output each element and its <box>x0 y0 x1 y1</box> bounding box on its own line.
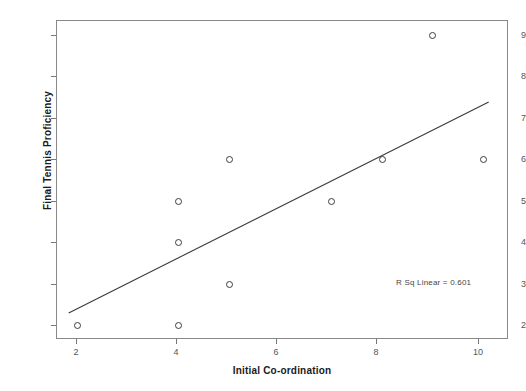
x-tick-label-4: 4 <box>164 348 188 357</box>
data-point <box>74 322 81 329</box>
x-tick-label-2: 2 <box>64 348 88 357</box>
x-tick-label-10: 10 <box>466 348 490 357</box>
x-tick-mark-10 <box>478 339 479 344</box>
x-tick-label-8: 8 <box>364 348 388 357</box>
data-point <box>226 156 233 163</box>
x-tick-mark-4 <box>176 339 177 344</box>
x-tick-mark-6 <box>276 339 277 344</box>
data-point <box>480 156 487 163</box>
data-point <box>175 239 182 246</box>
x-tick-label-6: 6 <box>264 348 288 357</box>
x-tick-mark-8 <box>376 339 377 344</box>
data-point <box>175 322 182 329</box>
scatter-plot-figure: Final Tennis Proficiency 9 8 7 6 5 4 3 2 <box>0 0 526 391</box>
data-point <box>379 156 386 163</box>
x-axis-title: Initial Co-ordination <box>56 365 508 376</box>
plot-area <box>56 20 508 339</box>
y-axis-title: Final Tennis Proficiency <box>42 41 53 261</box>
data-point <box>328 198 335 205</box>
data-point <box>175 198 182 205</box>
r-squared-annotation: R Sq Linear = 0.601 <box>396 278 471 287</box>
data-point <box>226 281 233 288</box>
data-point <box>429 32 436 39</box>
x-tick-mark-2 <box>76 339 77 344</box>
